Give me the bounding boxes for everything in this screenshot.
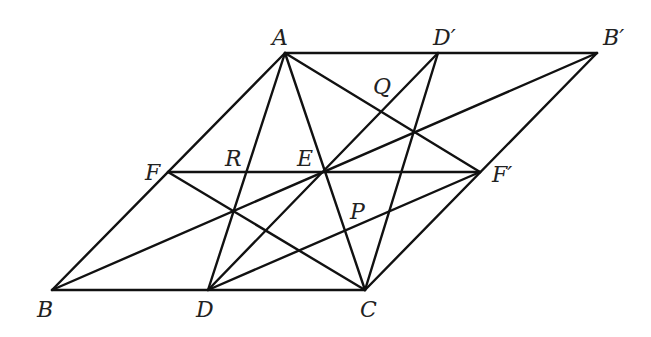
label-D: D bbox=[195, 297, 214, 322]
label-E: E bbox=[296, 146, 313, 171]
label-F: F bbox=[144, 160, 161, 185]
geometry-diagram: A D′ B′ Q F R E F′ P B D C bbox=[0, 0, 651, 337]
label-D-prime: D′ bbox=[432, 25, 456, 50]
label-P: P bbox=[349, 199, 366, 224]
segments-group bbox=[52, 53, 597, 290]
segment-A-Fp bbox=[285, 53, 480, 172]
label-A: A bbox=[270, 25, 288, 50]
label-R: R bbox=[224, 146, 242, 171]
label-Q: Q bbox=[373, 74, 391, 99]
label-B: B bbox=[36, 297, 53, 322]
labels-group: A D′ B′ Q F R E F′ P B D C bbox=[36, 25, 624, 322]
segment-D-Fp bbox=[208, 172, 480, 290]
label-B-prime: B′ bbox=[602, 25, 624, 50]
label-F-prime: F′ bbox=[491, 162, 512, 187]
label-C: C bbox=[360, 297, 377, 322]
